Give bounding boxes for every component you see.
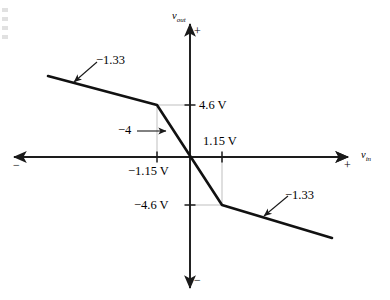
y-axis-negative-sign: −	[194, 274, 201, 286]
x-axis-positive-sign: +	[344, 159, 351, 171]
x-axis-negative-sign: −	[13, 159, 20, 171]
positive-breakpoint-label: 1.15 V	[203, 135, 237, 148]
y-axis-label-subscript: out	[177, 16, 186, 24]
upper-slope-label: −1.33	[96, 54, 125, 67]
negative-saturation-label: −4.6 V	[134, 199, 169, 212]
figure-canvas	[0, 0, 390, 300]
negative-breakpoint-label: −1.15 V	[128, 165, 169, 178]
transfer-characteristic-figure: vout vin + − + − 4.6 V −4.6 V 1.15 V −1.…	[0, 0, 390, 300]
y-axis-label: vout	[172, 11, 186, 24]
center-slope-label: −4	[118, 124, 131, 137]
positive-saturation-label: 4.6 V	[199, 99, 227, 112]
x-axis-label: vin	[361, 150, 371, 163]
y-axis-positive-sign: +	[194, 25, 201, 37]
upper-slope-leader	[74, 62, 97, 82]
annotation-leaders	[74, 62, 288, 216]
lower-slope-label: −1.33	[285, 189, 314, 202]
x-axis-label-subscript: in	[366, 155, 371, 163]
